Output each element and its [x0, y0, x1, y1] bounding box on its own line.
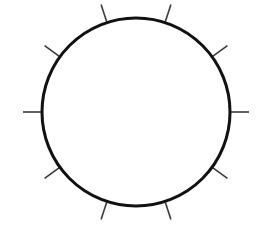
- tick-mark: [211, 46, 227, 58]
- tick-mark: [165, 200, 171, 219]
- tick-mark: [211, 167, 227, 179]
- tick-mark: [45, 46, 61, 58]
- tick-mark: [101, 200, 107, 219]
- circle-diagram: [0, 0, 265, 235]
- tick-mark: [165, 5, 171, 24]
- figure-canvas: [0, 0, 265, 235]
- circle-outline: [42, 18, 230, 206]
- tick-mark-group: [23, 5, 249, 220]
- tick-mark: [45, 167, 61, 179]
- tick-mark: [101, 5, 107, 24]
